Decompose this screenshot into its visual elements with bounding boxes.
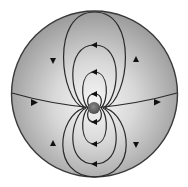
dipole-field-diagram — [0, 0, 188, 187]
dipole-source — [88, 102, 100, 114]
